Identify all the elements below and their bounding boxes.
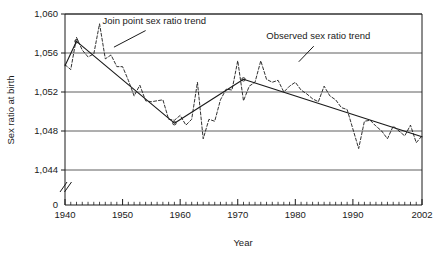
x-tick-label-2002: 2002 — [411, 209, 432, 220]
sex-ratio-line-chart: 1,0441,0481,0521,0561,060 19401950196019… — [0, 0, 436, 253]
x-tick-label-1950: 1950 — [112, 209, 133, 220]
y-tick-label-1,056: 1,056 — [34, 47, 58, 58]
y-tick-label-1,044: 1,044 — [34, 164, 58, 175]
x-tick-label-1940: 1940 — [54, 209, 75, 220]
y-tick-label-1,048: 1,048 — [34, 125, 58, 136]
x-tick-label-1980: 1980 — [285, 209, 306, 220]
y-tick-label-1,052: 1,052 — [34, 86, 58, 97]
annotation-label-1: Join point sex ratio trend — [102, 15, 206, 26]
y-axis-title: Sex ratio at birth — [5, 75, 16, 144]
x-tick-label-1990: 1990 — [342, 209, 363, 220]
y-axis-zero-label: 0 — [53, 199, 58, 210]
x-axis-title: Year — [233, 237, 252, 248]
x-tick-label-1960: 1960 — [170, 209, 191, 220]
chart-figure: 1,0441,0481,0521,0561,060 19401950196019… — [0, 0, 436, 253]
x-tick-label-1970: 1970 — [227, 209, 248, 220]
y-tick-label-1,060: 1,060 — [34, 8, 58, 19]
annotation-label-2: Observed sex ratio trend — [266, 30, 370, 41]
